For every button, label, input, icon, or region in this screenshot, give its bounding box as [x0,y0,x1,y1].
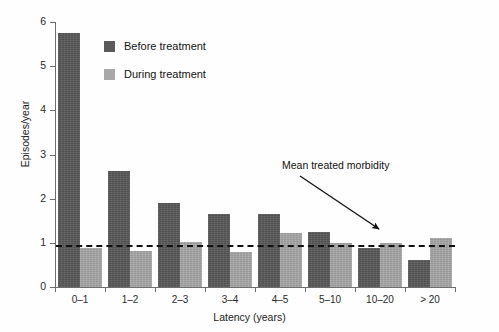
y-axis-tick [50,243,55,244]
bar-during-treatment [80,248,102,287]
y-axis-tick [50,22,55,23]
mean-treated-morbidity-line [56,245,455,247]
x-axis-tick [105,287,106,292]
bar-before-treatment [258,214,280,287]
legend-swatch-icon-before [104,41,115,52]
chart-figure: 0123456 0–11–22–33–44–55–1010–20> 20 Epi… [0,0,499,332]
x-axis-tick [255,287,256,292]
bar-before-treatment [208,214,230,287]
x-axis-tick-label: 3–4 [205,294,255,305]
bar-before-treatment [108,171,130,287]
legend-label-during: During treatment [124,68,206,80]
annotation-label-mean-treated-morbidity: Mean treated morbidity [282,159,389,171]
legend-swatch-icon-during [104,69,115,80]
bar-during-treatment [380,243,402,287]
x-axis-tick [305,287,306,292]
bar-before-treatment [358,248,380,287]
bar-during-treatment [130,251,152,287]
x-axis-tick [455,287,456,292]
x-axis-tick [205,287,206,292]
y-axis-tick [50,155,55,156]
x-axis-tick [355,287,356,292]
x-axis-tick-label: 5–10 [305,294,355,305]
legend-label-before: Before treatment [124,40,206,52]
bar-during-treatment [230,252,252,287]
y-axis-tick [50,110,55,111]
x-axis-title: Latency (years) [0,311,499,323]
bar-during-treatment [280,233,302,287]
y-axis-line [55,22,56,287]
x-axis-tick [55,287,56,292]
y-axis-tick-label: 0 [0,281,46,292]
x-axis-tick-label: 2–3 [155,294,205,305]
bar-before-treatment [308,232,330,287]
y-axis-tick [50,66,55,67]
bar-before-treatment [58,33,80,287]
y-axis-tick-label: 2 [0,193,46,204]
bar-during-treatment [180,242,202,287]
x-axis-tick-label: 4–5 [255,294,305,305]
x-axis-tick [405,287,406,292]
y-axis-tick-label: 6 [0,16,46,27]
plot-area: 0123456 0–11–22–33–44–55–1010–20> 20 Epi… [0,0,499,332]
legend-item-before: Before treatment [104,40,206,52]
y-axis-tick-label: 1 [0,237,46,248]
y-axis-tick-label: 5 [0,60,46,71]
x-axis-tick-label: 1–2 [105,294,155,305]
y-axis-tick [50,199,55,200]
x-axis-tick-label: 0–1 [55,294,105,305]
chart-legend: Before treatment During treatment [104,40,206,96]
y-axis-title: Episodes/year [19,74,31,194]
x-axis-tick-label: 10–20 [355,294,405,305]
x-axis-tick-label: > 20 [405,294,455,305]
bar-during-treatment [330,243,352,287]
legend-item-during: During treatment [104,68,206,80]
x-axis-tick [155,287,156,292]
bar-before-treatment [408,260,430,287]
